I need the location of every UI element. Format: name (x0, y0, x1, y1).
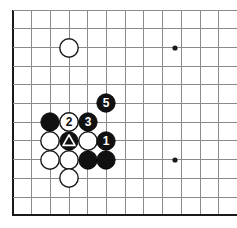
stone-black: 1 (97, 132, 115, 150)
black-stone (97, 151, 115, 169)
stone-black (60, 132, 78, 150)
white-stone (60, 169, 78, 187)
black-stone (79, 151, 97, 169)
move-number-label: 5 (103, 96, 110, 110)
stone-white (60, 39, 78, 57)
black-stone (41, 113, 59, 131)
go-board-canvas: 2315 (0, 0, 237, 228)
move-number-label: 1 (103, 134, 110, 148)
stone-white (60, 169, 78, 187)
white-stone (60, 39, 78, 57)
board-background (0, 0, 237, 228)
go-board-diagram: 2315 Go board move sequence diagram (0, 0, 237, 228)
star-point-upper-right (172, 45, 177, 50)
stone-black (41, 113, 59, 131)
white-stone (79, 132, 97, 150)
stone-black (97, 151, 115, 169)
move-number-label: 3 (85, 115, 92, 129)
stone-white (41, 132, 59, 150)
stone-black (79, 151, 97, 169)
stone-white (79, 132, 97, 150)
white-stone (60, 151, 78, 169)
stone-white: 2 (60, 113, 78, 131)
move-number-label: 2 (66, 115, 73, 129)
white-stone (41, 151, 59, 169)
stone-white (41, 151, 59, 169)
white-stone (41, 132, 59, 150)
stone-black: 5 (97, 94, 115, 112)
stone-black: 3 (79, 113, 97, 131)
star-point-lower-right (172, 157, 177, 162)
stone-white (60, 151, 78, 169)
